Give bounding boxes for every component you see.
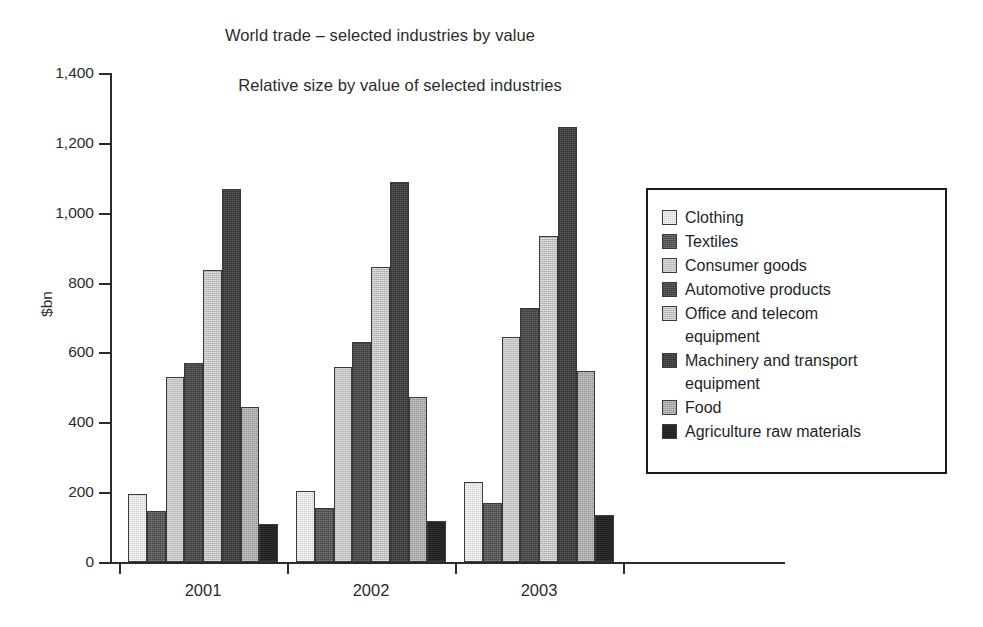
- x-axis-tick-label: 2003: [469, 581, 609, 600]
- bar: [128, 494, 147, 562]
- legend-item[interactable]: Textiles: [662, 230, 935, 253]
- bar-chart: World trade – selected industries by val…: [0, 0, 983, 627]
- bar: [539, 236, 558, 562]
- legend-swatch-icon: [662, 234, 677, 249]
- y-axis-tick: [99, 283, 110, 285]
- legend-item-label: Textiles: [685, 230, 738, 253]
- legend-item-label: Clothing: [685, 206, 744, 229]
- legend-item-label: Consumer goods: [685, 254, 807, 277]
- y-axis-tick: [99, 143, 110, 145]
- bar: [502, 337, 521, 562]
- y-axis-tick: [99, 73, 110, 75]
- bar: [427, 521, 446, 562]
- y-axis-tick-label: 1,000: [14, 204, 94, 222]
- x-axis-tick: [119, 562, 121, 574]
- y-axis-tick: [99, 352, 110, 354]
- legend-swatch-icon: [662, 282, 677, 297]
- bar: [259, 524, 278, 562]
- legend-item-label: Agriculture raw materials: [685, 420, 861, 443]
- bar: [558, 127, 577, 562]
- bar: [334, 367, 353, 562]
- y-axis-tick: [99, 422, 110, 424]
- legend-item[interactable]: Food: [662, 396, 935, 419]
- y-axis-line: [110, 73, 112, 564]
- x-axis-tick-label: 2001: [133, 581, 273, 600]
- bar: [166, 377, 185, 562]
- y-axis-tick-label: 200: [14, 483, 94, 501]
- bar: [409, 397, 428, 562]
- x-axis-tick: [455, 562, 457, 574]
- y-axis-tick-label: 1,400: [14, 64, 94, 82]
- legend-item-label: Machinery and transport equipment: [685, 349, 858, 395]
- x-axis-line: [110, 562, 785, 564]
- y-axis-tick: [99, 213, 110, 215]
- legend-swatch-icon: [662, 424, 677, 439]
- bar: [520, 308, 539, 562]
- y-axis-tick-label: 1,200: [14, 134, 94, 152]
- legend-item-label: Office and telecom equipment: [685, 302, 818, 348]
- y-axis-tick: [99, 492, 110, 494]
- bar: [483, 503, 502, 562]
- legend-item[interactable]: Clothing: [662, 206, 935, 229]
- bar: [464, 482, 483, 562]
- y-axis-tick-label: 400: [14, 413, 94, 431]
- legend-item[interactable]: Machinery and transport equipment: [662, 349, 935, 395]
- bar: [222, 189, 241, 562]
- bar: [241, 407, 260, 562]
- bar: [352, 342, 371, 562]
- legend-item[interactable]: Automotive products: [662, 278, 935, 301]
- x-axis-tick: [287, 562, 289, 574]
- legend-swatch-icon: [662, 400, 677, 415]
- y-axis-tick: [99, 562, 110, 564]
- bar: [577, 371, 596, 562]
- legend-swatch-icon: [662, 258, 677, 273]
- x-axis-tick: [623, 562, 625, 574]
- x-axis-tick-label: 2002: [301, 581, 441, 600]
- legend-item-label: Automotive products: [685, 278, 831, 301]
- bar: [184, 363, 203, 562]
- bar: [296, 491, 315, 562]
- legend-swatch-icon: [662, 353, 677, 368]
- legend-swatch-icon: [662, 210, 677, 225]
- y-axis-tick-label: 0: [14, 553, 94, 571]
- bar: [315, 508, 334, 562]
- bar: [595, 515, 614, 562]
- chart-title: World trade – selected industries by val…: [0, 26, 760, 45]
- bar: [371, 267, 390, 562]
- legend-swatch-icon: [662, 306, 677, 321]
- legend-item[interactable]: Office and telecom equipment: [662, 302, 935, 348]
- bar: [203, 270, 222, 562]
- chart-legend: ClothingTextilesConsumer goodsAutomotive…: [646, 188, 947, 474]
- bar: [147, 511, 166, 562]
- legend-item[interactable]: Agriculture raw materials: [662, 420, 935, 443]
- legend-item[interactable]: Consumer goods: [662, 254, 935, 277]
- legend-item-label: Food: [685, 396, 721, 419]
- bar: [390, 182, 409, 562]
- y-axis-tick-label: 800: [14, 274, 94, 292]
- y-axis-tick-label: 600: [14, 343, 94, 361]
